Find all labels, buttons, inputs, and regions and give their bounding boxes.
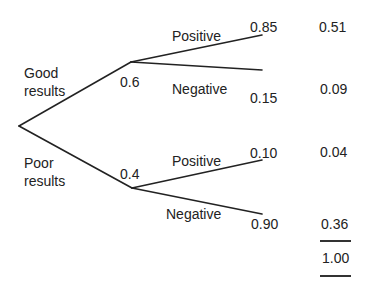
joint-poor-negative: 0.36 <box>321 216 348 233</box>
label-good-positive: Positive <box>172 28 221 45</box>
joint-good-negative: 0.09 <box>320 81 347 98</box>
sum-rule-bottom <box>320 275 351 277</box>
branch-good-negative <box>131 62 262 70</box>
conditional-poor-negative: 0.90 <box>251 216 278 233</box>
conditional-good-negative: 0.15 <box>250 90 277 107</box>
sum-rule-top <box>320 240 351 242</box>
probability-good: 0.6 <box>120 74 139 91</box>
label-poor-negative: Negative <box>166 206 221 223</box>
label-poor-results: results <box>24 173 65 190</box>
conditional-poor-positive: 0.10 <box>250 145 277 162</box>
joint-poor-positive: 0.04 <box>320 144 347 161</box>
probability-poor: 0.4 <box>120 166 139 183</box>
label-good-results: results <box>24 83 65 100</box>
joint-total: 1.00 <box>322 250 349 267</box>
label-poor: Poor <box>24 155 54 172</box>
label-good: Good <box>24 65 58 82</box>
joint-good-positive: 0.51 <box>319 19 346 36</box>
label-poor-positive: Positive <box>172 153 221 170</box>
label-good-negative: Negative <box>172 81 227 98</box>
conditional-good-positive: 0.85 <box>250 19 277 36</box>
